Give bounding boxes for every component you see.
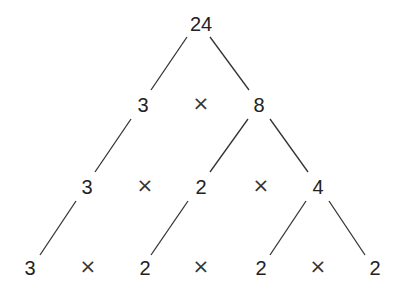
branch-8-2 bbox=[210, 119, 248, 172]
node-2: 2 bbox=[195, 176, 206, 198]
node-4: 4 bbox=[312, 176, 323, 198]
factor-tree-diagram: 24 3 × 8 3 × 2 × 4 3 × 2 × 2 × 2 bbox=[0, 0, 401, 297]
branch-3-3 bbox=[95, 119, 131, 172]
times-sign: × bbox=[310, 254, 327, 278]
branch-4-2-left bbox=[270, 201, 306, 255]
times-sign: × bbox=[193, 91, 210, 115]
times-sign: × bbox=[80, 254, 97, 278]
node-2: 2 bbox=[139, 257, 150, 279]
branches bbox=[40, 37, 365, 255]
node-3: 3 bbox=[24, 257, 35, 279]
node-3: 3 bbox=[81, 176, 92, 198]
tree-canvas: 24 3 × 8 3 × 2 × 4 3 × 2 × 2 × 2 bbox=[0, 0, 401, 297]
branch-24-8 bbox=[210, 37, 249, 90]
node-24: 24 bbox=[190, 13, 212, 35]
times-sign: × bbox=[253, 173, 270, 197]
node-2: 2 bbox=[255, 257, 266, 279]
node-3: 3 bbox=[137, 94, 148, 116]
branch-8-4 bbox=[270, 119, 308, 172]
times-sign: × bbox=[193, 254, 210, 278]
times-sign: × bbox=[137, 173, 154, 197]
branch-4-2-right bbox=[329, 201, 365, 255]
node-2: 2 bbox=[369, 257, 380, 279]
branch-3-3-bottom bbox=[40, 201, 76, 255]
node-8: 8 bbox=[253, 94, 264, 116]
branch-2-2 bbox=[151, 201, 188, 255]
branch-24-3 bbox=[151, 37, 187, 90]
